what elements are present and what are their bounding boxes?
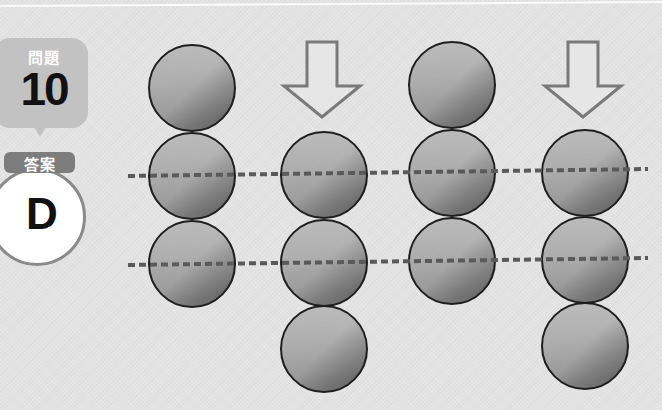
puzzle-canvas: 問題 10 D 答案 — [0, 0, 662, 410]
down-arrow-icon — [545, 42, 621, 117]
answer-tag: 答案 — [4, 152, 75, 173]
sphere-diagram — [0, 0, 662, 410]
sphere — [409, 42, 495, 128]
sphere — [542, 130, 628, 216]
sphere — [542, 303, 628, 389]
answer-tag-label: 答案 — [4, 153, 75, 174]
sphere — [149, 45, 235, 131]
down-arrow-icon — [284, 42, 360, 117]
sphere — [281, 306, 367, 392]
